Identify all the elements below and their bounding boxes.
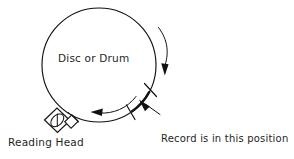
curved-arrow-down-icon [159, 28, 168, 68]
curved-arrow-left-icon [100, 97, 137, 114]
reading-head-icon [45, 108, 79, 133]
curved-arrow-down-head [161, 63, 168, 75]
annotation-line-1: Record is in this position [161, 132, 294, 145]
annotation-text: Record is in this position when "Read" i… [161, 106, 294, 159]
reading-head-label: Reading Head [8, 136, 84, 148]
curved-arrow-left-head [91, 109, 103, 116]
figure-root: Disc or Drum Reading Head Record is in t… [0, 0, 294, 159]
disc-label: Disc or Drum [58, 52, 129, 64]
record-arc-end-tick [127, 105, 136, 120]
